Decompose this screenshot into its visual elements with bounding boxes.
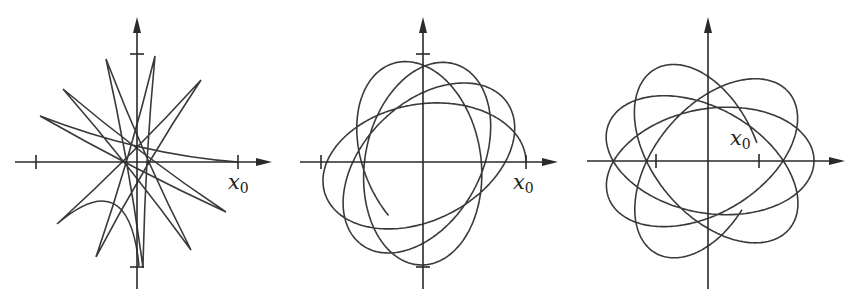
orbit-trajectory [323,62,526,265]
x-axis-arrow-icon [542,158,558,166]
panel-3 [587,17,845,289]
orbit-figure [0,0,854,303]
x0-label-panel-1: x0 [228,172,249,195]
x0-label-panel-3: x0 [730,128,751,151]
y-axis-arrow-icon [133,17,141,33]
x-axis-arrow-icon [256,158,272,166]
panel-1 [15,17,272,289]
x-axis-arrow-icon [829,157,845,165]
y-axis-arrow-icon [419,17,427,33]
panel-2 [300,17,558,289]
x0-label-panel-2: x0 [513,172,534,195]
y-axis-arrow-icon [704,17,712,33]
